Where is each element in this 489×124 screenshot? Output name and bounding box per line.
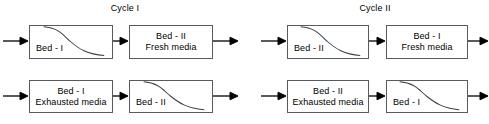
process-box-bed-1-curve-cycle2[interactable]: Bed - I	[386, 80, 468, 113]
process-box-label: Bed - I Exhausted media	[30, 86, 112, 108]
flow-arrow-inter-c1r2	[113, 90, 129, 102]
flow-arrow-outlet-c1r2	[213, 90, 239, 102]
process-box-label: Bed - I Fresh media	[387, 31, 467, 53]
flow-arrow-outlet-c2r1	[468, 35, 489, 47]
process-box-bed-2-fresh-media[interactable]: Bed - II Fresh media	[129, 25, 213, 59]
cycle-2-title: Cycle II	[333, 3, 417, 13]
diagram-canvas: Cycle I Cycle II Bed - I Bed - II Fresh …	[0, 0, 489, 124]
flow-arrow-inter-c1r1	[113, 35, 129, 47]
process-box-label: Bed - II	[294, 43, 324, 54]
process-box-label: Bed - II Fresh media	[130, 31, 212, 53]
flow-arrow-inlet-c1r2	[3, 90, 29, 102]
cycle-1-title: Cycle I	[83, 3, 167, 13]
flow-arrow-inlet-c2r2	[261, 90, 287, 102]
process-box-label: Bed - II Exhausted media	[288, 86, 368, 108]
flow-arrow-inter-c2r2	[369, 90, 386, 102]
process-box-label: Bed - I	[393, 97, 420, 108]
process-box-label: Bed - II	[136, 97, 166, 108]
process-box-bed-2-exhausted-media[interactable]: Bed - II Exhausted media	[287, 80, 369, 113]
flow-arrow-outlet-c2r2	[468, 90, 489, 102]
process-box-bed-1-curve[interactable]: Bed - I	[29, 25, 113, 59]
flow-arrow-outlet-c1r1	[213, 35, 239, 47]
process-box-bed-1-exhausted-media[interactable]: Bed - I Exhausted media	[29, 80, 113, 113]
process-box-bed-2-curve[interactable]: Bed - II	[129, 80, 213, 113]
flow-arrow-inlet-c1r1	[3, 35, 29, 47]
flow-arrow-inlet-c2r1	[261, 35, 287, 47]
process-box-label: Bed - I	[36, 43, 63, 54]
process-box-bed-2-curve-cycle2[interactable]: Bed - II	[287, 25, 369, 59]
flow-arrow-inter-c2r1	[369, 35, 386, 47]
process-box-bed-1-fresh-media[interactable]: Bed - I Fresh media	[386, 25, 468, 59]
